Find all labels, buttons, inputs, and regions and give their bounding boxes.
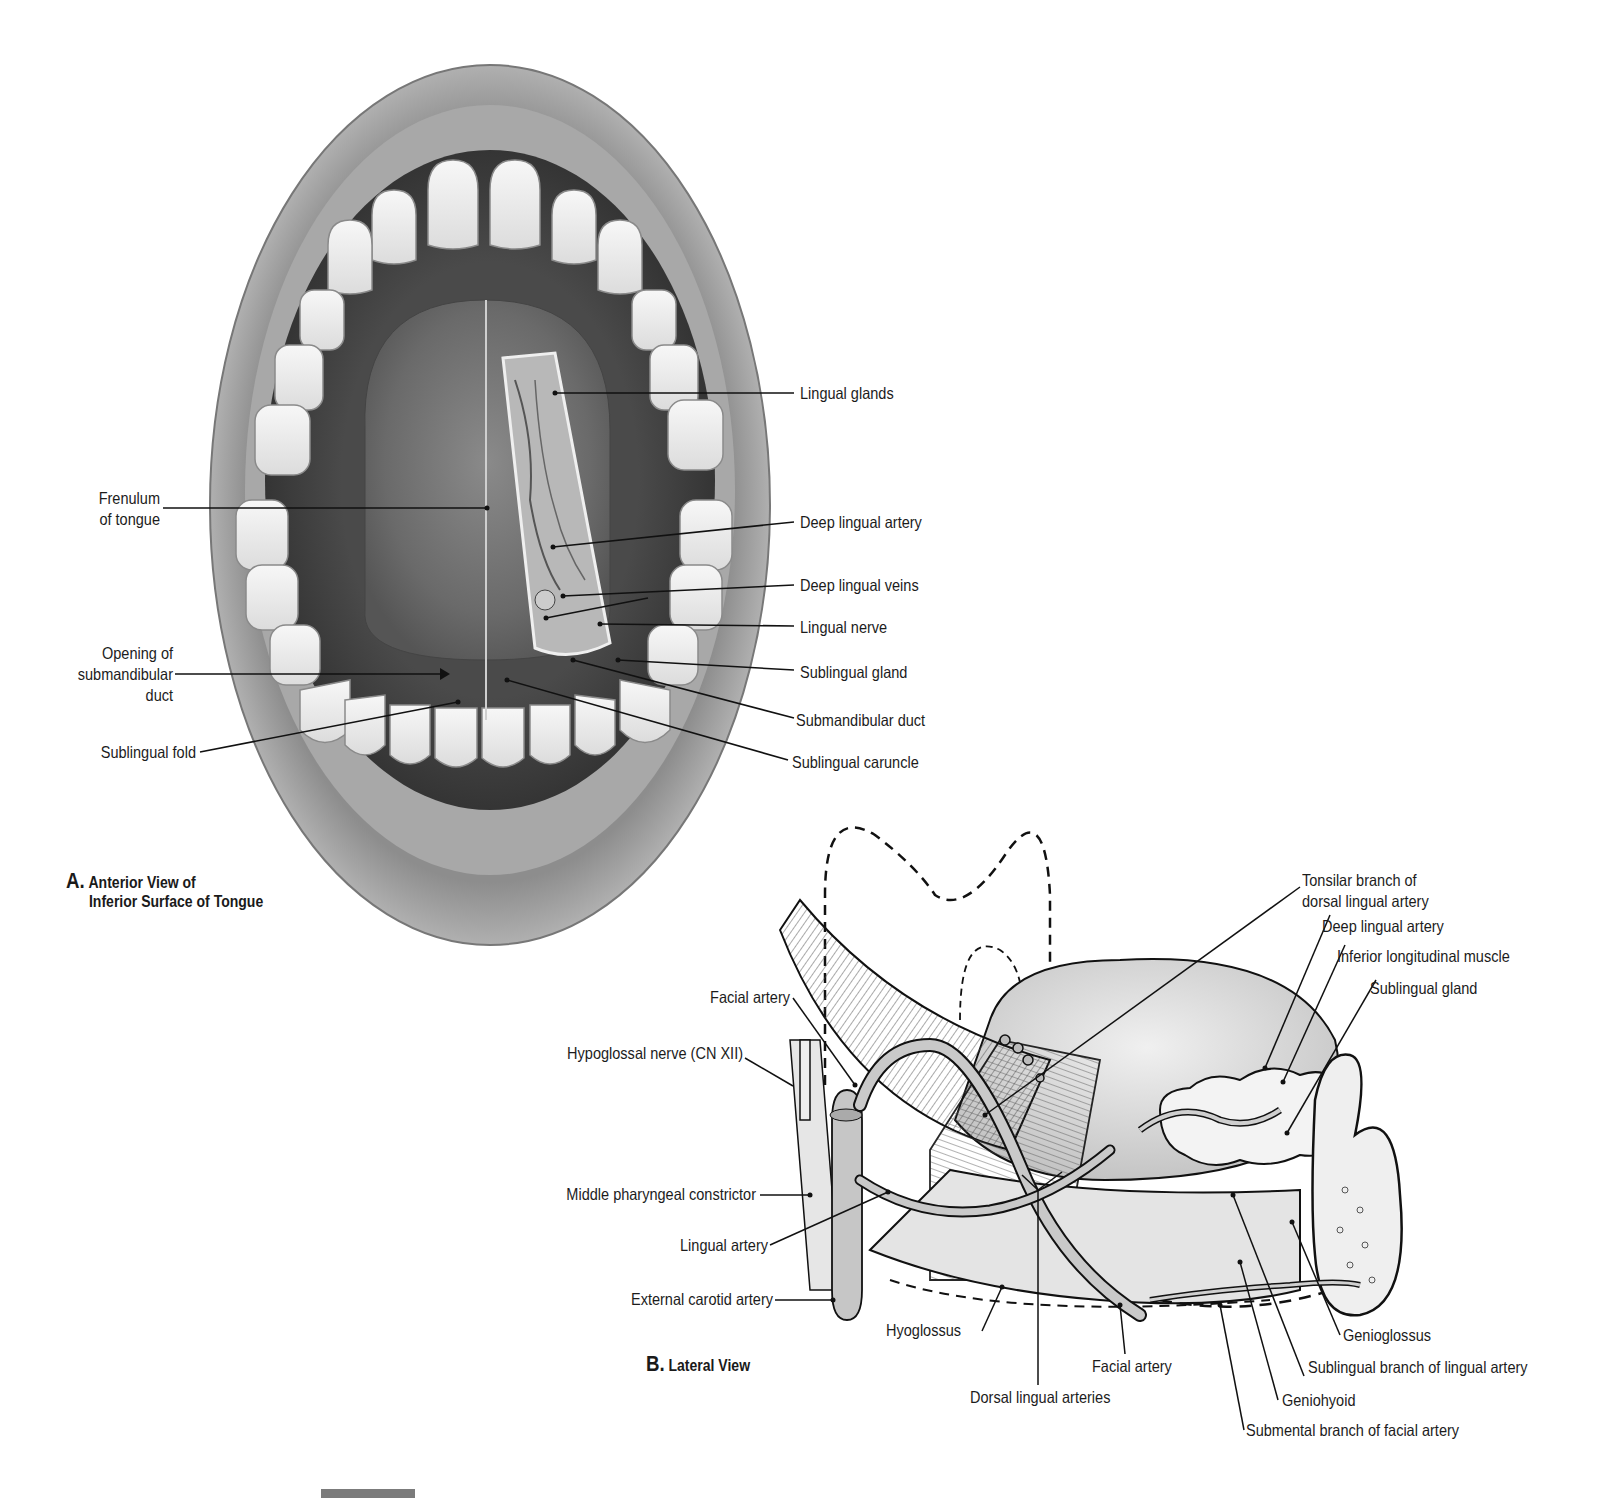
- label-submandibular-duct: Submandibular duct: [796, 710, 925, 731]
- panel-b-caption: B. Lateral View: [646, 1351, 750, 1377]
- panel-a-caption: A. Anterior View of Inferior Surface of …: [66, 868, 263, 911]
- label-lingual-glands: Lingual glands: [800, 383, 894, 404]
- tongue-anatomy-figure: Frenulum of tongue Opening of submandibu…: [0, 0, 1613, 1498]
- mandible: [1313, 1055, 1402, 1316]
- label-frenulum: Frenulum of tongue: [72, 488, 160, 530]
- label-tonsilar-branch: Tonsilar branch of dorsal lingual artery: [1302, 870, 1429, 912]
- label-deep-lingual-artery-b: Deep lingual artery: [1322, 916, 1444, 937]
- label-deep-lingual-artery-a: Deep lingual artery: [800, 512, 922, 533]
- label-middle-pharyngeal-constrictor: Middle pharyngeal constrictor: [496, 1184, 756, 1205]
- label-dorsal-lingual-arteries: Dorsal lingual arteries: [970, 1387, 1110, 1408]
- page-tab-marker: [321, 1489, 415, 1498]
- label-facial-artery-top: Facial artery: [658, 987, 790, 1008]
- label-hyoglossus: Hyoglossus: [886, 1320, 961, 1341]
- label-sublingual-branch: Sublingual branch of lingual artery: [1308, 1357, 1528, 1378]
- label-hypoglossal-nerve: Hypoglossal nerve (CN XII): [529, 1043, 743, 1064]
- label-deep-lingual-veins: Deep lingual veins: [800, 575, 919, 596]
- label-sublingual-caruncle: Sublingual caruncle: [792, 752, 919, 773]
- label-submental-branch: Submental branch of facial artery: [1246, 1420, 1459, 1441]
- label-facial-artery-bottom: Facial artery: [1092, 1356, 1172, 1377]
- label-geniohyoid: Geniohyoid: [1282, 1390, 1355, 1411]
- label-sublingual-fold: Sublingual fold: [59, 742, 196, 763]
- panel-b-illustration: [0, 0, 1613, 1498]
- label-lingual-nerve: Lingual nerve: [800, 617, 887, 638]
- label-sublingual-gland-b: Sublingual gland: [1370, 978, 1477, 999]
- label-genioglossus: Genioglossus: [1343, 1325, 1431, 1346]
- label-external-carotid-artery: External carotid artery: [586, 1289, 773, 1310]
- label-lingual-artery: Lingual artery: [620, 1235, 768, 1256]
- label-inferior-longitudinal-muscle: Inferior longitudinal muscle: [1337, 946, 1510, 967]
- label-opening-submandibular-duct: Opening of submandibular duct: [43, 643, 173, 706]
- label-sublingual-gland-a: Sublingual gland: [800, 662, 907, 683]
